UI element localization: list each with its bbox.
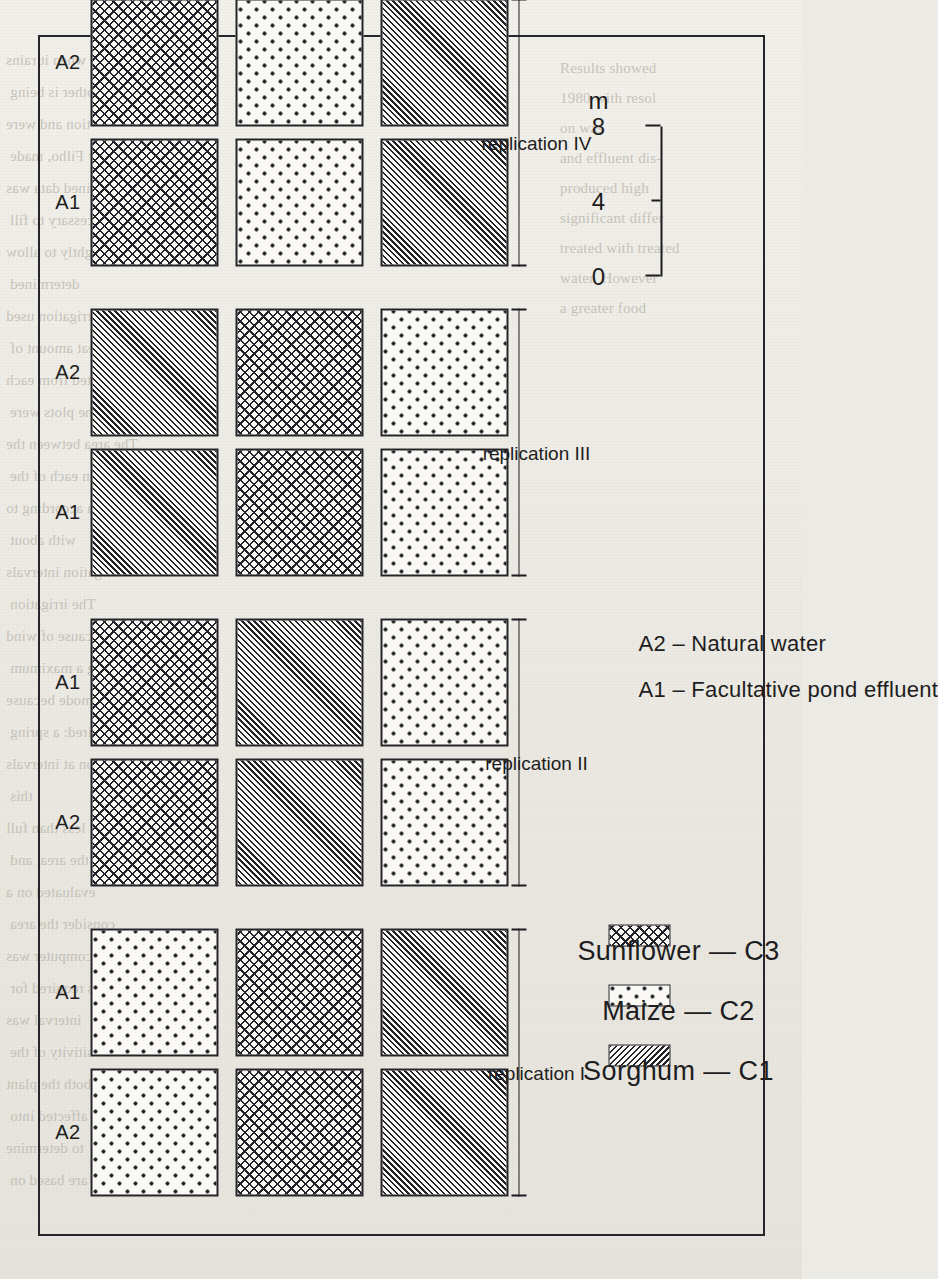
plot-sunflower-c3 bbox=[90, 0, 218, 126]
figure-frame: A2A1replication IA2A1replication IIA1A2r… bbox=[38, 35, 765, 1236]
plot-maize-c2 bbox=[380, 758, 508, 886]
plot-maize-c2 bbox=[380, 308, 508, 436]
scale-tick bbox=[651, 199, 660, 201]
replication-bracket-group: replication III bbox=[518, 308, 564, 576]
legend-label-sorghum-c1: Sorghum — C1 bbox=[583, 1055, 774, 1086]
plot-sunflower-c3 bbox=[90, 758, 218, 886]
scale-tick bbox=[645, 124, 660, 126]
bracket-cap-left bbox=[511, 1194, 526, 1196]
scale-tick-label: 8 bbox=[591, 112, 604, 140]
plot-sunflower-c3 bbox=[235, 928, 363, 1056]
scale-tick-label: 4 bbox=[591, 187, 604, 215]
plot-sorghum-c1 bbox=[380, 1068, 508, 1196]
bracket-cap-left bbox=[511, 884, 526, 886]
plot-sorghum-c1 bbox=[90, 448, 218, 576]
legend-label-maize-c2: Maize — C2 bbox=[602, 995, 755, 1026]
column-label-a2: A2 bbox=[55, 811, 80, 834]
plot-maize-c2 bbox=[380, 618, 508, 746]
column-label-a2: A2 bbox=[55, 361, 80, 384]
column-label-a1: A1 bbox=[55, 981, 80, 1004]
bracket-cap-right bbox=[511, 928, 526, 930]
replication-bracket-group: replication II bbox=[518, 618, 564, 886]
water-legend-a1: A1 – Facultative pond effluent bbox=[638, 676, 938, 702]
plot-maize-c2 bbox=[235, 0, 363, 126]
replication-label: replication II bbox=[485, 752, 587, 774]
bracket-cap-right bbox=[511, 618, 526, 620]
plot-maize-c2 bbox=[90, 928, 218, 1056]
scale-unit-label: m bbox=[588, 86, 608, 114]
column-label-a2: A2 bbox=[55, 1121, 80, 1144]
plot-sunflower-c3 bbox=[90, 618, 218, 746]
plot-sunflower-c3 bbox=[235, 448, 363, 576]
replication-bracket-group: replication IV bbox=[518, 0, 564, 266]
plot-sorghum-c1 bbox=[380, 928, 508, 1056]
replication-bracket-group: replication I bbox=[518, 928, 564, 1196]
scale-bar: 048m bbox=[620, 76, 700, 276]
replication-label: replication III bbox=[482, 442, 590, 464]
plot-sorghum-c1 bbox=[235, 618, 363, 746]
column-label-a1: A1 bbox=[55, 191, 80, 214]
plot-sunflower-c3 bbox=[235, 308, 363, 436]
replication-label: replication I bbox=[487, 1062, 584, 1084]
plot-sorghum-c1 bbox=[235, 758, 363, 886]
plot-sorghum-c1 bbox=[380, 138, 508, 266]
bracket-cap-left bbox=[511, 264, 526, 266]
plot-layout-grid: A2A1replication IA2A1replication IIA1A2r… bbox=[38, 35, 765, 1236]
bracket-cap-right bbox=[511, 308, 526, 310]
plot-maize-c2 bbox=[90, 1068, 218, 1196]
scale-tick bbox=[645, 274, 660, 276]
replication-label: replication IV bbox=[481, 132, 591, 154]
plot-maize-c2 bbox=[380, 448, 508, 576]
column-label-a1: A1 bbox=[55, 501, 80, 524]
plot-sunflower-c3 bbox=[90, 138, 218, 266]
legend-label-sunflower-c3: Sunflower — C3 bbox=[577, 935, 779, 966]
plot-sorghum-c1 bbox=[380, 0, 508, 126]
plot-maize-c2 bbox=[235, 138, 363, 266]
water-legend-a2: A2 – Natural water bbox=[638, 630, 826, 656]
column-label-a2: A2 bbox=[55, 51, 80, 74]
bracket-cap-left bbox=[511, 574, 526, 576]
plot-sunflower-c3 bbox=[235, 1068, 363, 1196]
figure-rotated-canvas: A2A1replication IA2A1replication IIA1A2r… bbox=[38, 35, 765, 1236]
plot-sorghum-c1 bbox=[90, 308, 218, 436]
column-label-a1: A1 bbox=[55, 671, 80, 694]
scale-tick-label: 0 bbox=[591, 262, 604, 290]
